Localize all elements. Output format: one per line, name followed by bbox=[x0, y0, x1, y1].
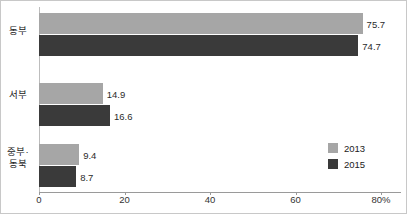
bar-value-label: 8.7 bbox=[76, 171, 93, 182]
x-tick-label: 20 bbox=[119, 194, 130, 205]
bar-2015-동부[interactable] bbox=[39, 35, 358, 56]
bar-group: 14.916.6 bbox=[39, 83, 381, 127]
chart-legend: 2013 2015 bbox=[328, 140, 365, 172]
bar-row: 74.7 bbox=[39, 35, 381, 56]
bar-2015-중부·동북[interactable] bbox=[39, 166, 76, 187]
x-tick-label: 60 bbox=[290, 194, 301, 205]
bar-2015-서부[interactable] bbox=[39, 105, 110, 126]
category-label-west: 서부 bbox=[1, 89, 35, 101]
bar-row: 16.6 bbox=[39, 105, 381, 126]
bar-2013-서부[interactable] bbox=[39, 83, 103, 104]
legend-label-2013: 2013 bbox=[344, 143, 365, 154]
bar-value-label: 74.7 bbox=[358, 40, 381, 51]
bar-value-label: 75.7 bbox=[363, 18, 386, 29]
x-tick-label: 80% bbox=[371, 194, 390, 205]
bar-value-label: 14.9 bbox=[103, 88, 126, 99]
bar-2013-중부·동북[interactable] bbox=[39, 144, 79, 165]
legend-item-2013[interactable]: 2013 bbox=[328, 140, 365, 156]
legend-label-2015: 2015 bbox=[344, 159, 365, 170]
x-axis-line bbox=[39, 192, 401, 193]
bar-chart: 동부 서부 중부· 동북 75.774.714.916.69.48.7 0204… bbox=[0, 0, 407, 214]
x-tick-label: 40 bbox=[205, 194, 216, 205]
legend-swatch-2013 bbox=[328, 143, 338, 153]
x-tick-label: 0 bbox=[36, 194, 41, 205]
bar-2013-동부[interactable] bbox=[39, 13, 363, 34]
bar-value-label: 16.6 bbox=[110, 110, 133, 121]
bar-row: 75.7 bbox=[39, 13, 381, 34]
bar-group: 75.774.7 bbox=[39, 13, 381, 57]
bar-row: 14.9 bbox=[39, 83, 381, 104]
legend-item-2015[interactable]: 2015 bbox=[328, 156, 365, 172]
legend-swatch-2015 bbox=[328, 159, 338, 169]
category-label-east: 동부 bbox=[1, 25, 35, 37]
category-label-central-northeast: 중부· 동북 bbox=[1, 146, 35, 170]
bar-value-label: 9.4 bbox=[79, 149, 96, 160]
